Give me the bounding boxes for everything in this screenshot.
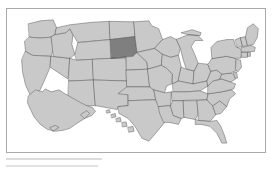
state-UT[interactable]: Utah	[69, 58, 94, 81]
state-ME[interactable]: Maine	[245, 24, 258, 46]
page-root: Washington Oregon California Nevada Idah…	[0, 0, 278, 172]
state-TX[interactable]: Texas	[118, 100, 164, 141]
state-ND[interactable]: North Dakota	[109, 21, 135, 39]
map-figure-frame: Washington Oregon California Nevada Idah…	[6, 8, 266, 153]
caption-placeholder	[6, 157, 102, 169]
state-AL[interactable]: Alabama	[183, 101, 198, 120]
state-NV[interactable]: Nevada	[50, 56, 70, 79]
state-WY[interactable]: Wyoming	[75, 40, 111, 61]
state-RI[interactable]: Rhode Island	[248, 52, 250, 56]
state-CO[interactable]: Colorado	[93, 58, 128, 81]
us-map[interactable]: Washington Oregon California Nevada Idah…	[7, 9, 265, 152]
state-CT[interactable]: Connecticut	[242, 52, 248, 57]
state-WA[interactable]: Washington	[29, 20, 57, 38]
caption-line-1	[6, 158, 102, 160]
state-KS[interactable]: Kansas	[126, 69, 150, 87]
caption-line-2	[6, 165, 98, 167]
state-TN[interactable]: Tennessee	[172, 91, 208, 101]
state-FL[interactable]: Florida	[195, 119, 227, 143]
state-SD[interactable]: South Dakota	[110, 37, 137, 59]
state-NJ[interactable]: New Jersey	[236, 59, 242, 72]
states-layer: Washington Oregon California Nevada Idah…	[22, 20, 259, 143]
state-NM[interactable]: New Mexico	[94, 80, 129, 110]
